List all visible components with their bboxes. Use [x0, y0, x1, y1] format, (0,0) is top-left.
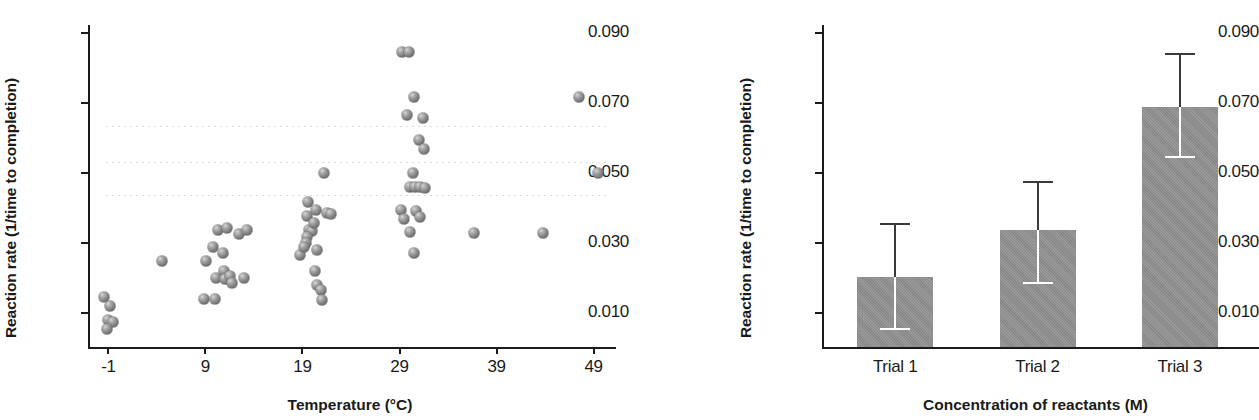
scan-artifact-line	[106, 126, 610, 127]
scatter-point	[312, 244, 323, 255]
scatter-x-tick-0	[107, 347, 109, 354]
scatter-x-tick-label: 9	[201, 357, 210, 377]
scatter-y-tick-label: 0.090	[553, 22, 629, 42]
scatter-point	[316, 294, 327, 305]
scatter-x-tick-1	[204, 347, 206, 354]
error-bar-cap-lower-1	[1023, 282, 1053, 284]
scatter-point	[409, 248, 420, 259]
scatter-x-axis-line	[88, 347, 616, 349]
scatter-y-tick-label: 0.010	[553, 302, 629, 322]
bar-y-tick-0	[815, 312, 822, 314]
scatter-plot-panel: Reaction rate (1/time to completion) Tem…	[0, 0, 629, 420]
scatter-y-tick-2	[81, 172, 88, 174]
bar-y-axis-line	[822, 25, 824, 349]
scatter-point	[402, 109, 413, 120]
scatter-y-axis-title: Reaction rate (1/time to completion)	[2, 78, 20, 338]
scatter-point	[299, 241, 310, 252]
scatter-y-tick-4	[81, 32, 88, 34]
bar-y-axis-title: Reaction rate (1/time to completion)	[737, 78, 755, 338]
scatter-y-tick-label: 0.070	[553, 92, 629, 112]
error-bar-cap-lower-0	[880, 328, 910, 330]
bar-category-label: Trial 1	[873, 357, 918, 377]
scatter-x-tick-2	[301, 347, 303, 354]
error-bar-cap-upper-0	[880, 223, 910, 225]
bar-y-tick-2	[815, 172, 822, 174]
scatter-point	[469, 227, 480, 238]
scatter-point	[325, 209, 336, 220]
scatter-point	[226, 277, 237, 288]
scatter-x-tick-label: 49	[584, 357, 602, 377]
scatter-x-tick-label: 39	[487, 357, 505, 377]
scatter-y-tick-0	[81, 312, 88, 314]
error-bar-cap-upper-2	[1165, 53, 1195, 55]
scatter-point	[418, 143, 429, 154]
scatter-x-tick-label: -1	[101, 357, 116, 377]
scatter-point	[399, 213, 410, 224]
bar-y-tick-3	[815, 102, 822, 104]
bar-category-label: Trial 2	[1015, 357, 1060, 377]
figure-two-panel-chart: Reaction rate (1/time to completion) Tem…	[0, 0, 1259, 420]
scatter-point	[419, 182, 430, 193]
scatter-point	[201, 256, 212, 267]
scatter-point	[221, 223, 232, 234]
scatter-point	[318, 168, 329, 179]
scatter-x-tick-4	[496, 347, 498, 354]
scatter-point	[414, 211, 425, 222]
scatter-point	[417, 112, 428, 123]
error-bar-stem-lower-0	[894, 277, 896, 328]
bar-y-tick-4	[815, 32, 822, 34]
scatter-point	[310, 266, 321, 277]
bar-y-tick-1	[815, 242, 822, 244]
scan-artifact-line	[106, 162, 610, 163]
scatter-point	[309, 218, 320, 229]
scatter-point	[239, 273, 250, 284]
scatter-point	[242, 224, 253, 235]
error-bar-cap-lower-2	[1165, 156, 1195, 158]
scatter-x-tick-label: 19	[293, 357, 311, 377]
scatter-point	[198, 294, 209, 305]
scatter-point	[538, 227, 549, 238]
error-bar-stem-upper-0	[894, 223, 896, 277]
error-bar-stem-lower-2	[1179, 107, 1181, 156]
scatter-point	[405, 226, 416, 237]
bar-chart-panel: Reaction rate (1/time to completion) Con…	[629, 0, 1259, 420]
bar-y-tick-label: 0.090	[1078, 22, 1259, 42]
scatter-point	[408, 167, 419, 178]
bar-x-axis-line	[822, 347, 1259, 349]
scatter-y-tick-3	[81, 102, 88, 104]
scatter-point	[409, 92, 420, 103]
bar-x-axis-title: Concentration of reactants (M)	[822, 396, 1249, 414]
scatter-point	[210, 294, 221, 305]
bar-category-label: Trial 3	[1158, 357, 1203, 377]
scatter-point	[593, 168, 604, 179]
scatter-point	[105, 301, 116, 312]
scatter-x-axis-title: Temperature (°C)	[88, 396, 612, 414]
error-bar-stem-upper-1	[1037, 181, 1039, 230]
error-bar-stem-upper-2	[1179, 53, 1181, 107]
scatter-point	[404, 47, 415, 58]
scatter-x-tick-3	[399, 347, 401, 354]
error-bar-stem-lower-1	[1037, 230, 1039, 283]
scatter-point	[156, 255, 167, 266]
scatter-x-tick-5	[593, 347, 595, 354]
scatter-point	[217, 247, 228, 258]
scatter-x-tick-label: 29	[390, 357, 408, 377]
scatter-y-tick-label: 0.030	[553, 232, 629, 252]
scatter-point	[311, 204, 322, 215]
scatter-y-axis-line	[88, 25, 90, 349]
scatter-y-tick-1	[81, 242, 88, 244]
scan-artifact-line	[106, 195, 610, 196]
scatter-point	[102, 324, 113, 335]
scatter-y-tick-label: 0.050	[553, 162, 629, 182]
scatter-point	[574, 92, 585, 103]
error-bar-cap-upper-1	[1023, 181, 1053, 183]
